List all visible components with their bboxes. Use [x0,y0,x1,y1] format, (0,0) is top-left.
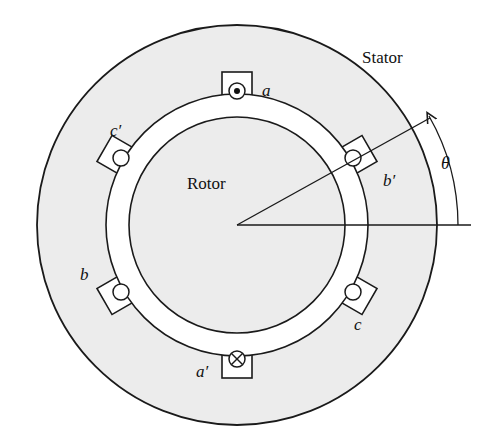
theta-label: θ [441,153,450,173]
conductor-c [345,284,361,300]
conductor-a [229,83,245,99]
machine-diagram: Stator Rotor θ a a′ b b′ c c′ [0,0,491,430]
slot-b-prime-label: b′ [383,171,396,190]
conductor-b [113,284,129,300]
rotor-label: Rotor [187,174,226,193]
slot-c-label: c [354,315,362,334]
conductor-c-prime [113,150,129,166]
stator-label: Stator [362,48,403,67]
conductor-a-prime [229,351,245,367]
slot-a-label: a [262,81,271,100]
slot-a-prime-label: a′ [196,362,209,381]
slot-c-prime-label: c′ [110,121,122,140]
slot-b-label: b [80,265,89,284]
